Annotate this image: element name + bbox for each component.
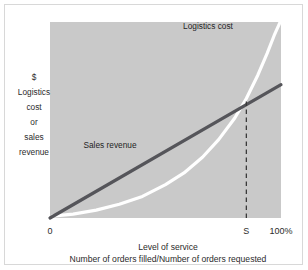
x-tick-100: 100% [269,226,292,236]
x-axis-sublabel: Number of orders filled/Number of orders… [70,254,267,264]
x-tick-s: S [243,226,249,236]
chart-canvas: $ Logistics cost or sales revenue Logist… [0,0,308,270]
y-axis-label-line-1: Logistics [18,87,50,97]
logistics-cost-label: Logistics cost [183,21,233,31]
x-axis-label: Level of service [138,242,198,252]
x-tick-0: 0 [47,226,52,236]
y-axis-label: $ Logistics cost or sales revenue [18,72,50,157]
sales-revenue-label: Sales revenue [83,140,136,150]
y-axis-label-line-5: revenue [19,147,49,157]
y-axis-label-line-4: sales [24,132,43,142]
y-axis-label-line-3: or [30,117,38,127]
y-axis-label-line-2: cost [26,102,42,112]
chart-figure: $ Logistics cost or sales revenue Logist… [0,0,308,270]
y-axis-label-line-0: $ [32,72,37,82]
